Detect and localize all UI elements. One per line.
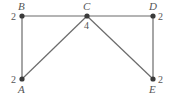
node-c: [84, 13, 89, 18]
degree-label-b: 2: [11, 11, 16, 22]
edge-c-a: [22, 16, 87, 79]
edge-c-e: [87, 16, 153, 79]
node-d: [150, 13, 155, 18]
degree-label-d: 2: [158, 11, 163, 22]
node-b: [19, 13, 24, 18]
degree-label-c: 4: [84, 20, 89, 31]
degree-label-a: 2: [11, 74, 16, 85]
node-label-e: E: [148, 83, 156, 95]
degree-label-e: 2: [158, 74, 163, 85]
node-label-c: C: [83, 0, 91, 12]
node-a: [19, 76, 24, 81]
node-label-a: A: [17, 83, 25, 95]
graph-diagram: B C D A E 2 4 2 2 2: [0, 0, 172, 99]
node-label-d: D: [148, 0, 157, 12]
node-label-b: B: [18, 0, 25, 12]
node-e: [150, 76, 155, 81]
